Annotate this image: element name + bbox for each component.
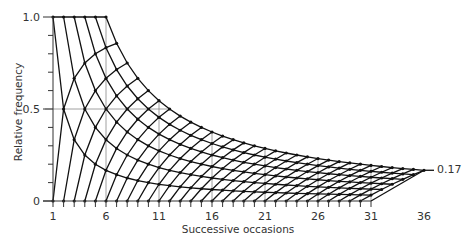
lattice-point <box>253 172 256 175</box>
lattice-point <box>316 157 319 160</box>
lattice-point <box>189 147 192 150</box>
y-tick-label: 0 <box>33 195 40 208</box>
lattice-point <box>369 164 372 167</box>
lattice-point <box>83 107 86 110</box>
x-axis-title: Successive occasions <box>182 223 295 235</box>
lattice-point <box>126 61 129 64</box>
lattice-point <box>200 187 203 190</box>
x-tick-label: 1 <box>50 210 57 223</box>
lattice-point <box>338 173 341 176</box>
lattice-point <box>200 175 203 178</box>
lattice-point <box>285 183 288 186</box>
lattice-point <box>83 61 86 64</box>
lattice-point <box>94 52 97 55</box>
x-tick-label: 16 <box>205 210 219 223</box>
lattice-point <box>242 141 245 144</box>
lattice-point <box>369 176 372 179</box>
success-curve <box>95 17 413 175</box>
lattice-point <box>232 148 235 151</box>
lattice-point <box>168 107 171 110</box>
lattice-point <box>168 169 171 172</box>
relative-frequency-lattice-chart: 1611162126313600.51.0 Successive occasio… <box>0 0 472 249</box>
lattice-point <box>369 193 372 196</box>
lattice-point <box>136 97 139 100</box>
lattice-point <box>115 121 118 124</box>
lattice-point <box>94 15 97 18</box>
lattice-point <box>104 46 107 49</box>
failure-line <box>64 63 128 201</box>
lattice-point <box>179 157 182 160</box>
lattice-point <box>369 182 372 185</box>
lattice-point <box>73 77 76 80</box>
lattice-point <box>136 77 139 80</box>
lattice-point <box>126 107 129 110</box>
lattice-point <box>316 164 319 167</box>
lattice-point <box>232 159 235 162</box>
lattice-point <box>274 174 277 177</box>
lattice-point <box>147 181 150 184</box>
failure-line <box>95 101 159 201</box>
lattice-point <box>391 166 394 169</box>
lattice-point <box>62 107 65 110</box>
lattice-point <box>179 143 182 146</box>
axes <box>43 17 371 207</box>
lattice-point <box>210 142 213 145</box>
lattice-point <box>285 159 288 162</box>
lattice-point <box>168 138 171 141</box>
lattice-point <box>136 138 139 141</box>
lattice-point <box>327 186 330 189</box>
failure-line <box>85 91 149 201</box>
lattice-point <box>391 183 394 186</box>
x-tick-label: 36 <box>417 210 431 223</box>
lattice-point <box>253 144 256 147</box>
lattice-point <box>200 126 203 129</box>
lattice-point <box>348 161 351 164</box>
x-tick-label: 31 <box>364 210 378 223</box>
lattice-point <box>168 184 171 187</box>
lattice-point <box>147 89 150 92</box>
lattice-point <box>221 167 224 170</box>
y-tick-label: 1.0 <box>23 11 41 24</box>
lattice-point <box>221 189 224 192</box>
failure-line <box>191 146 255 201</box>
lattice-point <box>210 153 213 156</box>
lattice-point <box>115 173 118 176</box>
lattice-point <box>157 149 160 152</box>
lattice-point <box>157 99 160 102</box>
lattice-point <box>136 118 139 121</box>
lattice-point <box>338 167 341 170</box>
lattice-point <box>316 192 319 195</box>
lattice-point <box>327 165 330 168</box>
lattice-point <box>210 130 213 133</box>
lattice-point <box>391 177 394 180</box>
lattice-point <box>115 42 118 45</box>
lattice-point <box>104 138 107 141</box>
lattice-point <box>285 167 288 170</box>
lattice-point <box>263 173 266 176</box>
failure-line <box>159 136 223 201</box>
lattice-point <box>380 176 383 179</box>
lattice-point <box>253 190 256 193</box>
lattice-point <box>83 15 86 18</box>
lattice-point <box>62 15 65 18</box>
lattice-point <box>274 158 277 161</box>
lattice-point <box>147 126 150 129</box>
lattice-point <box>232 189 235 192</box>
lattice-point <box>285 191 288 194</box>
lattice-point <box>412 168 415 171</box>
lattice-point <box>306 155 309 158</box>
lattice-point <box>295 184 298 187</box>
lattice-point <box>327 179 330 182</box>
lattice-point <box>359 187 362 190</box>
lattice-point <box>348 187 351 190</box>
lattice-point <box>126 84 129 87</box>
lattice-point <box>104 77 107 80</box>
lattice-point <box>200 150 203 153</box>
lattice-point <box>94 163 97 166</box>
lattice-point <box>263 182 266 185</box>
failure-line <box>170 140 234 201</box>
lattice-point <box>359 175 362 178</box>
lattice-point <box>179 185 182 188</box>
lattice-point <box>253 153 256 156</box>
lattice-point <box>306 163 309 166</box>
